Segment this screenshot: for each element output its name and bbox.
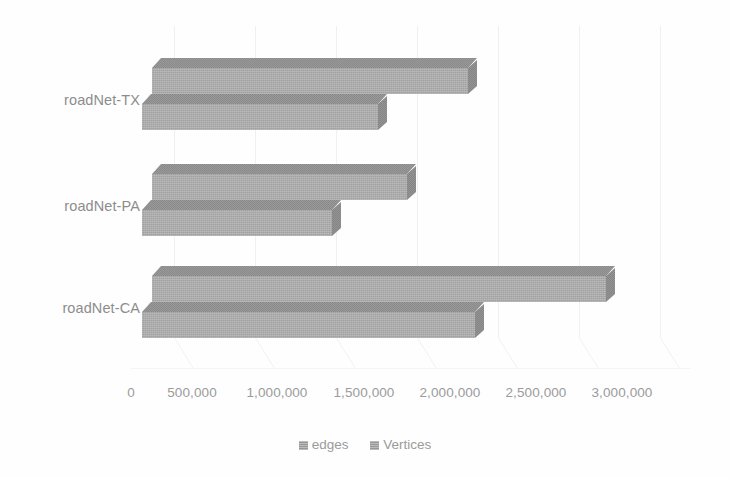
bar-side-face: [378, 96, 387, 130]
bar-side-face: [475, 304, 484, 338]
legend-swatch-icon: [370, 441, 379, 450]
x-tick-1000000: 1,000,000: [247, 385, 308, 400]
floor-gridline-1500000: [336, 338, 356, 369]
legend-item-edges[interactable]: edges: [299, 437, 349, 452]
x-tick-3000000: 3,000,000: [592, 385, 653, 400]
bar-top-face: [142, 302, 484, 312]
bar-roadnet-pa-vertices: [142, 200, 332, 236]
bar-front-face: [142, 312, 475, 338]
category-label-text: roadNet-CA: [20, 300, 140, 316]
bar-top-face: [152, 58, 477, 68]
x-axis-tick-labels: 0 500,000 1,000,000 1,500,000 2,000,000 …: [0, 385, 730, 405]
bar-roadnet-tx-vertices: [142, 94, 378, 130]
bar-side-face: [407, 166, 416, 200]
legend-item-vertices[interactable]: Vertices: [370, 437, 431, 452]
x-tick-2000000: 2,000,000: [420, 385, 481, 400]
bar-side-face: [468, 60, 477, 94]
bar-side-face: [332, 202, 341, 236]
bar-top-face: [142, 200, 341, 210]
floor-gridline-2500000: [498, 338, 518, 369]
floor-gridline-1000000: [255, 338, 275, 369]
bar-roadnet-tx-edges: [152, 58, 468, 94]
bar-roadnet-ca-vertices: [142, 302, 475, 338]
bar-roadnet-ca-edges: [152, 266, 606, 302]
bar-roadnet-pa-edges: [152, 164, 407, 200]
x-axis-line: [131, 368, 691, 369]
bar-front-face: [142, 104, 378, 130]
chart-legend: edges Vertices: [0, 437, 730, 452]
floor-gridline-3000000: [579, 338, 599, 369]
floor-gridline-500000: [174, 338, 194, 369]
x-tick-1500000: 1,500,000: [334, 385, 395, 400]
bar-top-face: [152, 266, 615, 276]
bar-front-face: [152, 68, 468, 94]
category-label-text: roadNet-PA: [20, 198, 140, 214]
bar-side-face: [606, 268, 615, 302]
plot-area: roadNet-TX roadNet-PA: [0, 0, 730, 400]
bar-front-face: [152, 174, 407, 200]
x-tick-500000: 500,000: [167, 385, 217, 400]
bar-top-face: [152, 164, 416, 174]
gridline-back-edge: [660, 26, 661, 338]
floor-gridline-2000000: [417, 338, 437, 369]
category-label-text: roadNet-TX: [20, 92, 140, 108]
bar-top-face: [142, 94, 387, 104]
floor-gridline-back-edge: [660, 338, 680, 369]
legend-swatch-icon: [299, 441, 308, 450]
bar-chart: roadNet-TX roadNet-PA: [0, 0, 730, 477]
legend-label: Vertices: [383, 437, 431, 452]
x-tick-2500000: 2,500,000: [506, 385, 567, 400]
legend-label: edges: [312, 437, 349, 452]
x-tick-0: 0: [127, 385, 135, 400]
bar-front-face: [142, 210, 332, 236]
bar-front-face: [152, 276, 606, 302]
